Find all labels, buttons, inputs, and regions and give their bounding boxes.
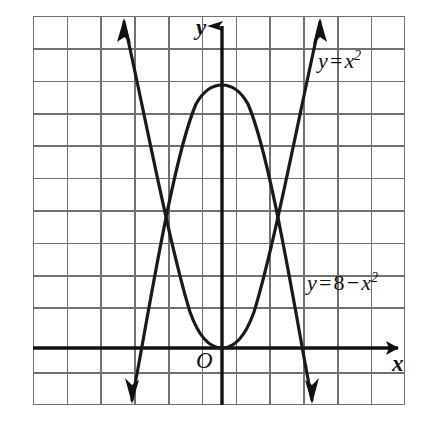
origin-label: O xyxy=(196,349,213,372)
label-down-exponent: 2 xyxy=(371,270,378,285)
label-down-minus: − xyxy=(345,270,362,295)
label-down-constant: 8 xyxy=(334,270,345,295)
label-up-exponent: 2 xyxy=(354,48,361,63)
curve-label-parabola-down: y=8−x2 xyxy=(307,272,378,294)
x-axis-label: x xyxy=(392,352,404,375)
y-axis-label: y xyxy=(196,16,206,39)
curve-label-parabola-up: y=x2 xyxy=(318,50,361,72)
figure-background xyxy=(0,0,430,433)
graph-figure: y=x2 y=8−x2 y x O xyxy=(0,0,430,433)
label-down-y: y xyxy=(307,270,317,295)
label-up-equals: = xyxy=(328,48,345,73)
coordinate-plane-svg xyxy=(0,0,430,433)
label-down-equals: = xyxy=(317,270,334,295)
label-up-base: x xyxy=(345,48,355,73)
label-down-base: x xyxy=(361,270,371,295)
label-up-y: y xyxy=(318,48,328,73)
